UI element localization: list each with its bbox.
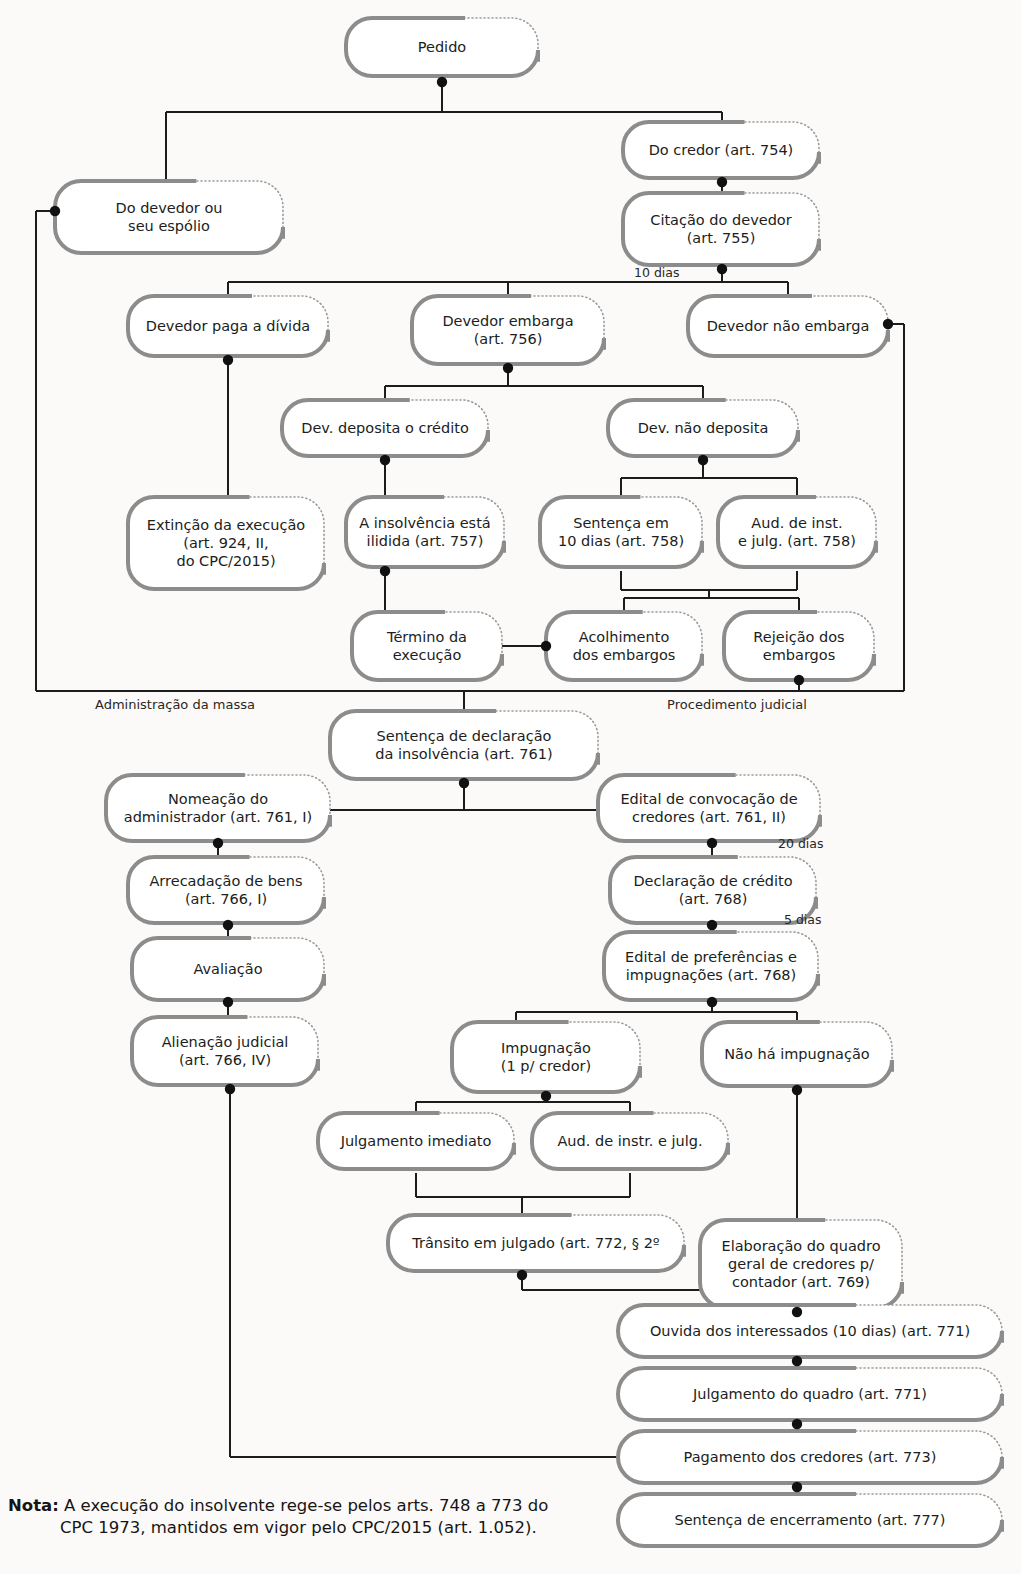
dot-arrecadacao [223, 920, 233, 930]
node-label: Devedor paga a dívida [146, 318, 310, 334]
node-label: Sentença em [573, 515, 669, 531]
edge-label-edge-10-dias: 10 dias [634, 265, 679, 280]
node-label: Pedido [418, 39, 467, 55]
node-label: A insolvência está [359, 515, 490, 531]
node-avaliacao[interactable]: Avaliação [132, 938, 324, 1000]
node-label: Citação do devedor [650, 212, 791, 228]
node-label: Aud. de instr. e julg. [557, 1133, 702, 1149]
node-fill [346, 497, 504, 567]
edge-label-edge-5-dias: 5 dias [784, 912, 822, 927]
dot-insolvencia-ilidida [380, 566, 390, 576]
node-label: Aud. de inst. [751, 515, 842, 531]
node-label: Julgamento imediato [340, 1133, 492, 1149]
node-aud-inst-julg-758[interactable]: Aud. de inst.e julg. (art. 758) [718, 497, 876, 567]
dot-citacao [717, 264, 727, 274]
node-sentenca-encerramento[interactable]: Sentença de encerramento (art. 777) [618, 1494, 1002, 1546]
node-label: Não há impugnação [724, 1046, 870, 1062]
node-pedido[interactable]: Pedido [346, 18, 538, 76]
node-nomeacao-administrador[interactable]: Nomeação doadministrador (art. 761, I) [106, 775, 330, 841]
dot-avaliacao [223, 997, 233, 1007]
node-acolhimento-embargos[interactable]: Acolhimentodos embargos [546, 612, 702, 680]
node-label: (art. 755) [687, 230, 756, 246]
node-label: do CPC/2015) [176, 553, 275, 569]
node-edital-preferencias[interactable]: Edital de preferências eimpugnações (art… [604, 932, 818, 1000]
dot-nomeacao [213, 838, 223, 848]
node-do-credor[interactable]: Do credor (art. 754) [623, 122, 819, 178]
node-label: Impugnação [501, 1040, 591, 1056]
node-fill [623, 193, 819, 265]
node-fill [724, 612, 874, 680]
node-label: impugnações (art. 768) [626, 967, 797, 983]
dot-ouvida [792, 1356, 802, 1366]
node-label: (art. 924, II, [183, 535, 268, 551]
node-fill [452, 1022, 640, 1092]
node-julgamento-quadro[interactable]: Julgamento do quadro (art. 771) [618, 1368, 1002, 1420]
dot-impugnacao [541, 1091, 551, 1101]
node-pagamento-credores[interactable]: Pagamento dos credores (art. 773) [618, 1431, 1002, 1483]
node-fill [718, 497, 876, 567]
node-citacao-devedor[interactable]: Citação do devedor(art. 755) [623, 193, 819, 265]
insolvency-flowchart: PedidoDo credor (art. 754)Do devedor ous… [0, 0, 1021, 1574]
node-extincao-execucao[interactable]: Extinção da execução(art. 924, II,do CPC… [128, 497, 324, 589]
node-label: contador (art. 769) [732, 1274, 870, 1290]
dot-alienacao [225, 1084, 235, 1094]
node-dev-deposita[interactable]: Dev. deposita o crédito [282, 400, 488, 456]
node-fill [412, 296, 604, 364]
node-do-devedor-espolio[interactable]: Do devedor ouseu espólio [55, 181, 283, 253]
dot-elaboracao [792, 1307, 802, 1317]
footnote: Nota: A execução do insolvente rege-se p… [8, 1495, 608, 1539]
node-rejeicao-embargos[interactable]: Rejeição dosembargos [724, 612, 874, 680]
node-fill [540, 497, 702, 567]
node-alienacao-judicial[interactable]: Alienação judicial(art. 766, IV) [132, 1017, 318, 1085]
node-label: credores (art. 761, II) [632, 809, 786, 825]
node-label: Avaliação [193, 961, 262, 977]
dot-acolhimento [541, 641, 551, 651]
node-label: Arrecadação de bens [149, 873, 302, 889]
node-label: da insolvência (art. 761) [375, 746, 552, 762]
dot-edital-preferencias [707, 997, 717, 1007]
node-devedor-embarga[interactable]: Devedor embarga(art. 756) [412, 296, 604, 364]
node-label: Trânsito em julgado (art. 772, § 2º [411, 1235, 660, 1251]
node-dev-nao-deposita[interactable]: Dev. não deposita [608, 400, 798, 456]
node-label: Sentença de encerramento (art. 777) [674, 1512, 945, 1528]
node-sentenca-10-dias[interactable]: Sentença em10 dias (art. 758) [540, 497, 702, 567]
node-label: Ouvida dos interessados (10 dias) (art. … [650, 1323, 970, 1339]
node-nao-ha-impugnacao[interactable]: Não há impugnação [702, 1022, 892, 1086]
node-label: Sentença de declaração [377, 728, 552, 744]
node-label: (art. 766, I) [185, 891, 267, 907]
node-devedor-nao-embarga[interactable]: Devedor não embarga [688, 296, 888, 356]
node-insolvencia-ilidida[interactable]: A insolvência estáilidida (art. 757) [346, 497, 504, 567]
node-arrecadacao-bens[interactable]: Arrecadação de bens(art. 766, I) [128, 857, 324, 923]
dot-do-credor [717, 177, 727, 187]
node-label: geral de credores p/ [728, 1256, 874, 1272]
node-label: Dev. não deposita [638, 420, 769, 436]
node-edital-convocacao[interactable]: Edital de convocação decredores (art. 76… [598, 775, 820, 841]
footnote-line1: A execução do insolvente rege-se pelos a… [64, 1496, 548, 1515]
node-label: (1 p/ credor) [501, 1058, 591, 1074]
node-impugnacao[interactable]: Impugnação(1 p/ credor) [452, 1022, 640, 1092]
node-label: Julgamento do quadro (art. 771) [692, 1386, 927, 1402]
node-label: Término da [386, 629, 467, 645]
node-elaboracao-quadro[interactable]: Elaboração do quadrogeral de credores p/… [700, 1220, 902, 1308]
node-devedor-paga[interactable]: Devedor paga a dívida [128, 296, 328, 356]
node-fill [604, 932, 818, 1000]
dot-julgamento-quadro [792, 1419, 802, 1429]
node-julgamento-imediato[interactable]: Julgamento imediato [318, 1113, 514, 1169]
node-fill [55, 181, 283, 253]
node-label: 10 dias (art. 758) [558, 533, 684, 549]
node-transito-julgado[interactable]: Trânsito em julgado (art. 772, § 2º [388, 1215, 684, 1271]
node-label: embargos [763, 647, 835, 663]
node-termino-execucao[interactable]: Término daexecução [352, 612, 502, 680]
node-sentenca-declaracao[interactable]: Sentença de declaraçãoda insolvência (ar… [330, 711, 598, 779]
node-label: ilidida (art. 757) [367, 533, 484, 549]
node-label: Dev. deposita o crédito [301, 420, 469, 436]
node-label: Edital de preferências e [625, 949, 797, 965]
node-label: Nomeação do [168, 791, 268, 807]
node-label: e julg. (art. 758) [738, 533, 856, 549]
node-ouvida-interessados[interactable]: Ouvida dos interessados (10 dias) (art. … [618, 1305, 1002, 1357]
node-aud-instr-julg[interactable]: Aud. de instr. e julg. [532, 1113, 728, 1169]
node-fill [128, 857, 324, 923]
dot-pagamento [792, 1482, 802, 1492]
node-label: (art. 766, IV) [179, 1052, 271, 1068]
dot-devedor-embarga [503, 363, 513, 373]
